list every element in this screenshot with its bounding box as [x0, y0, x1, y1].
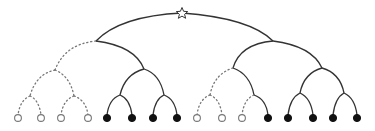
edge-rl-rlb: [233, 68, 254, 95]
leaf-open-circle-icon: [38, 115, 45, 122]
leaf-filled-circle-icon: [173, 114, 180, 121]
edge-lla-2: [30, 96, 41, 115]
edge-lr-lrb: [144, 69, 164, 95]
leaf-filled-circle-icon: [128, 114, 135, 121]
tree-diagram: [0, 0, 375, 131]
edge-rl-rla: [210, 68, 233, 95]
leaf-filled-circle-icon: [353, 114, 360, 121]
edge-rla-2: [210, 95, 222, 115]
root-star-icon: [176, 8, 187, 19]
edge-lla-1: [18, 96, 30, 115]
leaf-open-circle-icon: [85, 115, 92, 122]
leaf-open-circle-icon: [15, 115, 22, 122]
edge-root-right: [182, 13, 273, 41]
edge-rla-1: [197, 95, 210, 115]
edge-r-rl: [233, 41, 273, 68]
leaf-filled-circle-icon: [149, 114, 156, 121]
edge-rra-1: [288, 93, 300, 115]
edge-ll-llb: [55, 70, 74, 96]
edge-lra-1: [107, 95, 120, 115]
edge-l-lr: [96, 41, 144, 69]
edge-rra-2: [300, 93, 313, 115]
leaf-filled-circle-icon: [284, 114, 291, 121]
leaf-open-circle-icon: [219, 115, 226, 122]
leaf-open-circle-icon: [239, 115, 246, 122]
leaf-open-circle-icon: [58, 115, 65, 122]
edge-rr-rrb: [322, 68, 344, 93]
edge-ll-lla: [30, 70, 55, 96]
edge-llb-2: [74, 96, 88, 115]
edge-lra-2: [120, 95, 132, 115]
edge-rrb-2: [344, 93, 357, 115]
leaf-filled-circle-icon: [103, 114, 110, 121]
leaf-open-circle-icon: [194, 115, 201, 122]
edge-llb-1: [61, 96, 74, 115]
edge-l-ll: [55, 41, 96, 70]
edge-lr-lra: [120, 69, 144, 95]
edge-rlb-1: [242, 95, 254, 115]
edge-r-rr: [273, 41, 322, 68]
edge-rr-rra: [300, 68, 322, 93]
leaf-filled-circle-icon: [309, 114, 316, 121]
leaf-filled-circle-icon: [264, 114, 271, 121]
edge-rlb-2: [254, 95, 268, 115]
edge-lrb-1: [153, 95, 164, 115]
leaf-row: [15, 114, 361, 121]
edge-root-left: [96, 13, 182, 41]
edge-rrb-1: [333, 93, 344, 115]
leaf-filled-circle-icon: [329, 114, 336, 121]
edge-lrb-2: [164, 95, 177, 115]
